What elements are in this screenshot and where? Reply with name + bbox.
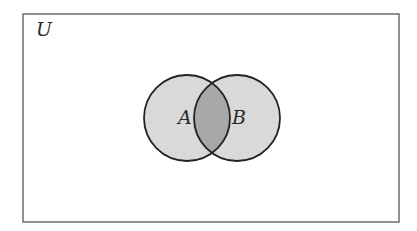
venn-diagram: U A B	[0, 0, 417, 231]
set-a-label: A	[176, 106, 192, 128]
set-b-label: B	[231, 106, 246, 128]
universe-label: U	[36, 18, 53, 40]
